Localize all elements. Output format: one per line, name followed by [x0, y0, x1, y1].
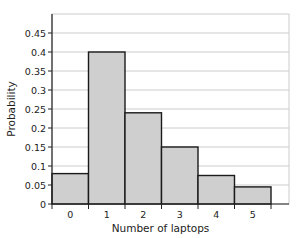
- x-axis-title: Number of laptops: [112, 222, 210, 234]
- bar-4: [198, 176, 235, 205]
- x-tick-label: 3: [177, 209, 183, 220]
- x-tick-labels: 012345: [67, 209, 256, 220]
- y-tick-label: 0.15: [25, 142, 46, 153]
- x-tick-label: 4: [213, 209, 219, 220]
- y-tick-label: 0.35: [25, 66, 46, 77]
- y-tick-labels: 00.050.10.150.20.250.30.350.40.45: [25, 28, 46, 210]
- x-tick-label: 5: [250, 209, 256, 220]
- y-tick-label: 0: [40, 199, 46, 210]
- bar-1: [89, 52, 126, 204]
- y-tick-label: 0.05: [25, 180, 46, 191]
- y-axis-title: Probability: [5, 81, 17, 137]
- x-tick-label: 0: [67, 209, 73, 220]
- bar-5: [235, 187, 272, 204]
- y-tick-label: 0.1: [31, 161, 46, 172]
- x-tick-label: 1: [104, 209, 110, 220]
- x-tick-label: 2: [140, 209, 146, 220]
- bar-2: [125, 113, 162, 204]
- bar-0: [52, 174, 89, 204]
- y-tick-label: 0.3: [31, 85, 46, 96]
- bar-3: [162, 147, 199, 204]
- histogram-chart: 00.050.10.150.20.250.30.350.40.45 012345…: [0, 0, 299, 238]
- y-tick-label: 0.45: [25, 28, 46, 39]
- y-tick-label: 0.2: [31, 123, 46, 134]
- y-tick-label: 0.4: [31, 47, 46, 58]
- y-tick-label: 0.25: [25, 104, 46, 115]
